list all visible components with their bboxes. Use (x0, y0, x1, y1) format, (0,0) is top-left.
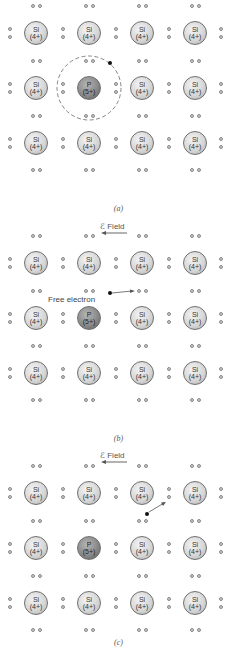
free-electron-arrow-b-icon (108, 290, 135, 296)
bound-electron (108, 61, 112, 65)
orbit-circle (57, 56, 121, 120)
annotations-overlay (0, 0, 237, 649)
free-electron-arrow-c-icon (145, 502, 166, 516)
field-arrow-b-icon (101, 231, 127, 235)
field-arrow-c-icon (101, 460, 127, 464)
